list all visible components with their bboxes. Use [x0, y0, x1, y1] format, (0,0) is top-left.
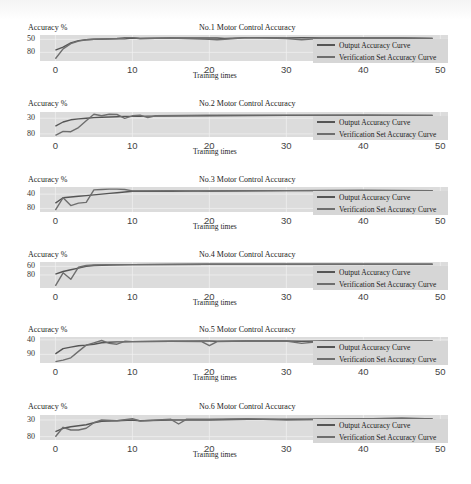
legend-label: Verification Set Accuracy Curve [339, 280, 436, 289]
legend-item: Output Accuracy Curve [313, 39, 448, 51]
x-tick-label: 50 [430, 140, 450, 151]
chart-title: No.6 Motor Control Accuracy [199, 402, 295, 411]
x-tick-label: 40 [353, 366, 373, 377]
x-tick-label: 10 [122, 366, 142, 377]
legend-line-swatch-icon [317, 133, 335, 135]
x-tick-label: 10 [122, 443, 142, 454]
y-tick-label: 80 [9, 432, 35, 441]
x-tick-label: 30 [276, 215, 296, 226]
x-tick-label: 10 [122, 215, 142, 226]
x-tick-label: 0 [45, 366, 65, 377]
legend-line-swatch-icon [317, 196, 335, 198]
x-tick-label: 0 [45, 140, 65, 151]
x-tick-label: 50 [430, 291, 450, 302]
y-tick-label: 40 [9, 335, 35, 344]
page-background-scan [0, 0, 471, 20]
legend-line-swatch-icon [317, 424, 335, 426]
legend-label: Output Accuracy Curve [339, 193, 410, 202]
x-tick-label: 0 [45, 291, 65, 302]
y-tick-label: 80 [9, 270, 35, 279]
chart-title: No.4 Motor Control Accuracy [199, 250, 295, 259]
legend-item: Output Accuracy Curve [313, 266, 448, 278]
y-tick-label: 40 [9, 189, 35, 198]
legend-label: Verification Set Accuracy Curve [339, 130, 436, 139]
y-axis-label: Accuracy % [28, 402, 67, 411]
legend: Output Accuracy CurveVerification Set Ac… [313, 191, 448, 215]
chart-title: No.3 Motor Control Accuracy [199, 175, 295, 184]
legend-label: Verification Set Accuracy Curve [339, 433, 436, 442]
y-tick-label: 80 [9, 47, 35, 56]
legend-item: Verification Set Accuracy Curve [313, 431, 448, 443]
legend-line-swatch-icon [317, 44, 335, 46]
x-tick-label: 40 [353, 215, 373, 226]
legend-item: Verification Set Accuracy Curve [313, 353, 448, 365]
x-axis-label: Training times [193, 298, 237, 307]
y-tick-label: 50 [9, 34, 35, 43]
y-axis-label: Accuracy % [28, 23, 67, 32]
legend-label: Output Accuracy Curve [339, 268, 410, 277]
x-tick-label: 50 [430, 366, 450, 377]
legend: Output Accuracy CurveVerification Set Ac… [313, 266, 448, 290]
legend-item: Output Accuracy Curve [313, 341, 448, 353]
y-tick-label: 30 [9, 113, 35, 122]
legend: Output Accuracy CurveVerification Set Ac… [313, 116, 448, 140]
legend-line-swatch-icon [317, 436, 335, 438]
y-axis-label: Accuracy % [28, 325, 67, 334]
legend: Output Accuracy CurveVerification Set Ac… [313, 419, 448, 443]
legend-line-swatch-icon [317, 358, 335, 360]
x-tick-label: 30 [276, 366, 296, 377]
legend-line-swatch-icon [317, 271, 335, 273]
x-tick-label: 40 [353, 140, 373, 151]
x-axis-label: Training times [193, 450, 237, 459]
x-tick-label: 0 [45, 64, 65, 75]
legend: Output Accuracy CurveVerification Set Ac… [313, 341, 448, 365]
legend-item: Output Accuracy Curve [313, 191, 448, 203]
x-tick-label: 30 [276, 140, 296, 151]
legend-line-swatch-icon [317, 121, 335, 123]
legend-label: Output Accuracy Curve [339, 118, 410, 127]
x-axis-label: Training times [193, 373, 237, 382]
legend-label: Output Accuracy Curve [339, 421, 410, 430]
x-tick-label: 40 [353, 64, 373, 75]
x-tick-label: 0 [45, 443, 65, 454]
x-tick-label: 50 [430, 64, 450, 75]
legend-label: Verification Set Accuracy Curve [339, 205, 436, 214]
chart-title: No.1 Motor Control Accuracy [199, 23, 295, 32]
x-axis-label: Training times [193, 147, 237, 156]
y-tick-label: 60 [9, 261, 35, 270]
legend-label: Verification Set Accuracy Curve [339, 53, 436, 62]
x-tick-label: 30 [276, 443, 296, 454]
x-axis-label: Training times [193, 222, 237, 231]
x-tick-label: 10 [122, 291, 142, 302]
legend-item: Output Accuracy Curve [313, 419, 448, 431]
x-tick-label: 0 [45, 215, 65, 226]
x-tick-label: 30 [276, 291, 296, 302]
legend-item: Verification Set Accuracy Curve [313, 203, 448, 215]
legend-item: Output Accuracy Curve [313, 116, 448, 128]
legend-item: Verification Set Accuracy Curve [313, 51, 448, 63]
legend-line-swatch-icon [317, 208, 335, 210]
y-tick-label: 30 [9, 415, 35, 424]
legend-item: Verification Set Accuracy Curve [313, 278, 448, 290]
chart-title: No.5 Motor Control Accuracy [199, 325, 295, 334]
x-axis-label: Training times [193, 71, 237, 80]
legend-item: Verification Set Accuracy Curve [313, 128, 448, 140]
y-tick-label: 80 [9, 203, 35, 212]
chart-title: No.2 Motor Control Accuracy [199, 99, 295, 108]
x-tick-label: 10 [122, 64, 142, 75]
y-axis-label: Accuracy % [28, 99, 67, 108]
legend: Output Accuracy CurveVerification Set Ac… [313, 39, 448, 63]
x-tick-label: 50 [430, 215, 450, 226]
x-tick-label: 10 [122, 140, 142, 151]
x-tick-label: 40 [353, 443, 373, 454]
x-tick-label: 50 [430, 443, 450, 454]
y-axis-label: Accuracy % [28, 175, 67, 184]
legend-line-swatch-icon [317, 346, 335, 348]
x-tick-label: 30 [276, 64, 296, 75]
legend-label: Verification Set Accuracy Curve [339, 355, 436, 364]
legend-line-swatch-icon [317, 56, 335, 58]
y-tick-label: 80 [9, 129, 35, 138]
y-tick-label: 90 [9, 349, 35, 358]
legend-label: Output Accuracy Curve [339, 41, 410, 50]
x-tick-label: 40 [353, 291, 373, 302]
